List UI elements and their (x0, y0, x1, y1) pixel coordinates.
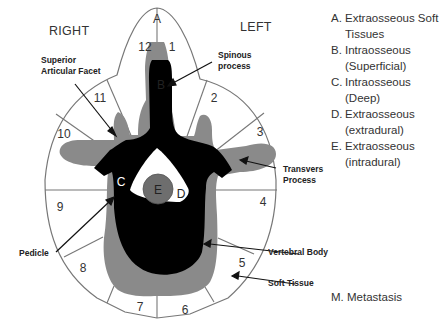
legend-text: Tissues (345, 28, 384, 40)
transvers-process-line1: Transvers (283, 164, 323, 175)
metastasis-legend: M. Metastasis (331, 291, 402, 303)
legend-key: D. (331, 106, 345, 138)
legend-item-b: B. Intraosseous(Superficial) (331, 42, 446, 74)
legend-key: B. (331, 42, 345, 74)
legend-item-d: D. Extraosseous(extradural) (331, 106, 446, 138)
legend-key: C. (331, 74, 345, 106)
legend-text: Extraosseous Soft (345, 12, 438, 24)
left-side-label: LEFT (240, 20, 272, 34)
superior-articular-facet-line1: Superior (41, 55, 101, 66)
spinous-process-line2: process (218, 61, 252, 72)
vertebral-body-annotation: Vertebral Body (268, 247, 328, 258)
legend-text: (intradural) (345, 156, 401, 168)
sector-12: 12 (138, 40, 152, 54)
legend: A. Extraosseous SoftTissues B. Intraosse… (331, 10, 446, 170)
sector-10: 10 (57, 127, 71, 141)
soft-tissue-annotation: Soft Tissue (268, 278, 314, 289)
legend-text: Intraosseous (345, 76, 411, 88)
spinous-process-line1: Spinous (218, 50, 252, 61)
legend-text: Intraosseous (345, 44, 411, 56)
right-side-label: RIGHT (49, 24, 89, 38)
legend-text: (extradural) (345, 124, 404, 136)
transvers-process-line2: Process (283, 175, 323, 186)
sector-9: 9 (57, 200, 64, 214)
superior-articular-facet-line2: Articular Facet (41, 66, 101, 77)
legend-item-e: E. Extraosseous(intradural) (331, 138, 446, 170)
legend-text: (Deep) (345, 92, 380, 104)
sector-6: 6 (182, 303, 189, 317)
legend-item-c: C. Intraosseous(Deep) (331, 74, 446, 106)
legend-text: Extraosseous (345, 108, 415, 120)
zone-b-label: B (157, 78, 165, 92)
sector-11: 11 (94, 91, 107, 105)
sector-2: 2 (211, 91, 218, 105)
sector-4: 4 (260, 195, 267, 209)
sector-5: 5 (239, 256, 246, 270)
transvers-process-annotation: Transvers Process (283, 164, 323, 186)
zone-e-label: E (154, 183, 162, 197)
superior-articular-facet-annotation: Superior Articular Facet (41, 55, 101, 77)
legend-item-a: A. Extraosseous SoftTissues (331, 10, 446, 42)
legend-key: A. (331, 10, 345, 42)
legend-text: Extraosseous (345, 140, 415, 152)
spinous-process-annotation: Spinous process (218, 50, 252, 72)
pedicle-annotation: Pedicle (19, 248, 49, 259)
zone-c-label: C (117, 175, 126, 189)
legend-text: (Superficial) (345, 60, 406, 72)
zone-d-label: D (177, 187, 186, 201)
sector-8: 8 (80, 261, 87, 275)
zone-a-label: A (153, 12, 161, 26)
sector-1: 1 (169, 40, 176, 54)
sector-7: 7 (137, 300, 144, 314)
legend-key: E. (331, 138, 345, 170)
sector-3: 3 (257, 125, 264, 139)
